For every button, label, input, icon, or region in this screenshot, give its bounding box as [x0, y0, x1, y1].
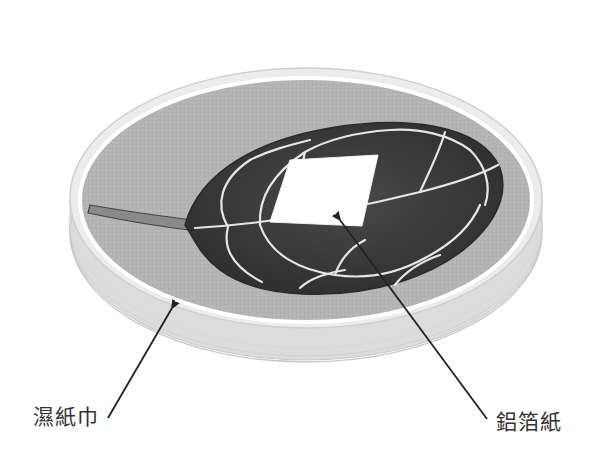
- label-aluminum-foil: 鋁箔紙: [496, 405, 562, 435]
- petri-dish-diagram: [0, 0, 609, 464]
- label-wet-filter-paper: 濕紙巾: [33, 400, 99, 430]
